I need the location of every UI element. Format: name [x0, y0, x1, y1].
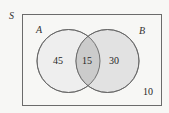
set-b-label: B	[139, 26, 145, 36]
universal-set-label: S	[9, 11, 14, 21]
set-a-label: A	[36, 25, 42, 35]
count-intersection: 15	[82, 56, 92, 66]
count-a-only: 45	[53, 56, 63, 66]
count-b-only: 30	[109, 56, 119, 66]
venn-diagram-figure: S A B 45 15 30 10	[0, 0, 169, 113]
count-outside: 10	[143, 87, 153, 97]
